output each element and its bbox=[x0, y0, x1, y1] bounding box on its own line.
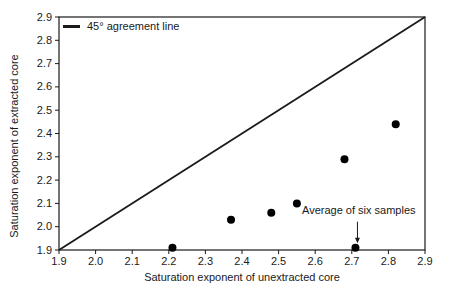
annotation-average-of-six-samples: Average of six samples bbox=[302, 205, 416, 216]
plot-area: 1.92.02.12.22.32.42.52.62.72.82.91.92.02… bbox=[0, 0, 450, 299]
data-point bbox=[267, 209, 275, 217]
x-tick-label: 2.8 bbox=[381, 255, 396, 267]
y-tick-label: 2.6 bbox=[37, 80, 52, 92]
legend: 45° agreement line bbox=[63, 21, 179, 32]
x-tick-label: 2.3 bbox=[198, 255, 213, 267]
x-tick-label: 2.7 bbox=[344, 255, 359, 267]
x-tick-label: 2.6 bbox=[308, 255, 323, 267]
y-tick-label: 1.9 bbox=[37, 244, 52, 256]
y-tick-label: 2.7 bbox=[37, 57, 52, 69]
x-tick-label: 2.2 bbox=[161, 255, 176, 267]
x-tick-label: 2.5 bbox=[271, 255, 286, 267]
y-tick-label: 2.4 bbox=[37, 127, 52, 139]
legend-label: 45° agreement line bbox=[87, 21, 179, 32]
x-tick-label: 2.9 bbox=[417, 255, 432, 267]
legend-line-swatch bbox=[63, 25, 80, 28]
y-tick-label: 2.3 bbox=[37, 150, 52, 162]
x-tick-label: 2.4 bbox=[234, 255, 249, 267]
x-axis-title: Saturation exponent of unextracted core bbox=[144, 272, 340, 283]
data-point bbox=[340, 155, 348, 163]
scatter-plot-figure: 1.92.02.12.22.32.42.52.62.72.82.91.92.02… bbox=[0, 0, 450, 299]
data-point bbox=[293, 199, 301, 207]
x-tick-label: 2.0 bbox=[88, 255, 103, 267]
y-tick-label: 2.9 bbox=[37, 11, 52, 23]
y-axis-title: Saturation exponent of extracted core bbox=[9, 54, 20, 237]
x-tick-label: 2.1 bbox=[125, 255, 140, 267]
annotation-arrowhead-icon bbox=[355, 238, 360, 244]
y-tick-label: 2.8 bbox=[37, 34, 52, 46]
data-point bbox=[227, 216, 235, 224]
data-point bbox=[168, 244, 176, 252]
y-tick-label: 2.5 bbox=[37, 104, 52, 116]
y-tick-label: 2.0 bbox=[37, 220, 52, 232]
x-tick-label: 1.9 bbox=[51, 255, 66, 267]
y-tick-label: 2.1 bbox=[37, 197, 52, 209]
data-point bbox=[392, 120, 400, 128]
data-point bbox=[351, 244, 359, 252]
y-tick-label: 2.2 bbox=[37, 174, 52, 186]
